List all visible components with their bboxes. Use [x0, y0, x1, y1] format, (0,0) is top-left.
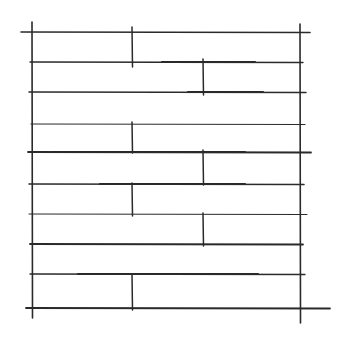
head-joint [132, 275, 133, 310]
sketch-drawing [0, 0, 349, 343]
course-line [26, 308, 330, 309]
horizontal-course-lines [21, 32, 330, 309]
head-joint [132, 27, 133, 67]
course-line [29, 92, 306, 93]
head-joint [132, 122, 133, 153]
head-joint [132, 183, 133, 216]
course-line [29, 214, 307, 215]
head-joint [203, 59, 204, 95]
head-joint [203, 213, 204, 246]
heavy-pen-strokes [52, 62, 263, 274]
brick-bond-sketch [0, 0, 349, 343]
vertical-head-joints [132, 27, 204, 310]
frame-right [300, 24, 301, 323]
course-line [31, 124, 305, 125]
course-line [30, 244, 303, 245]
head-joint [203, 150, 204, 185]
course-line [21, 32, 310, 33]
frame-left [32, 22, 33, 318]
outer-frame-verticals [32, 22, 301, 323]
